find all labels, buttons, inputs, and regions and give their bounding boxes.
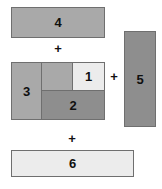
piece-label-2: 2 bbox=[69, 99, 76, 112]
plus-operator-top: + bbox=[48, 41, 68, 56]
rectangle-piece-6: 6 bbox=[11, 150, 134, 177]
piece-label-6: 6 bbox=[69, 157, 76, 170]
rectangle-piece-2: 2 bbox=[41, 90, 105, 120]
rectangle-piece-1: 1 bbox=[72, 62, 105, 91]
diagram-canvas: 4 + 3 1 2 + 5 + 6 bbox=[0, 0, 162, 189]
rectangle-piece-5: 5 bbox=[124, 31, 156, 127]
piece-label-4: 4 bbox=[54, 16, 61, 29]
piece-label-1: 1 bbox=[85, 70, 92, 83]
plus-operator-middle: + bbox=[106, 69, 122, 84]
rectangle-piece-4: 4 bbox=[11, 7, 105, 38]
piece-label-3: 3 bbox=[23, 85, 30, 98]
piece-label-5: 5 bbox=[136, 73, 143, 86]
rectangle-piece-3: 3 bbox=[11, 62, 42, 120]
rectangle-piece-unlabeled bbox=[41, 62, 73, 91]
plus-operator-bottom: + bbox=[62, 131, 82, 146]
composite-rectangle-group: 3 1 2 bbox=[11, 62, 105, 120]
